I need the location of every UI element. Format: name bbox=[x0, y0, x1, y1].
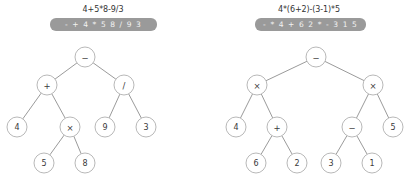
tree-edge bbox=[261, 136, 272, 155]
tree-node-label: 6 bbox=[253, 159, 258, 168]
tree-edge bbox=[357, 136, 367, 155]
tree-edge bbox=[377, 94, 388, 118]
tree-node-operand: 1 bbox=[362, 153, 382, 173]
tree-node-operand: 5 bbox=[34, 153, 54, 173]
tree-node-operand: 3 bbox=[321, 153, 341, 173]
tree-node-label: 5 bbox=[390, 123, 395, 132]
tree-node-label: × bbox=[253, 81, 260, 91]
tree-node-operator: − bbox=[75, 47, 95, 67]
tree-edge bbox=[52, 94, 65, 118]
tree-node-operand: 5 bbox=[383, 117, 403, 137]
tree-node-operator: × bbox=[247, 75, 267, 95]
tree-node-label: × bbox=[66, 123, 73, 133]
tree-node-label: 2 bbox=[294, 159, 299, 168]
tree-edge bbox=[74, 136, 81, 154]
tree-edge bbox=[336, 136, 347, 155]
tree-edge bbox=[129, 94, 142, 118]
tree-edge bbox=[50, 135, 64, 155]
tree-node-operator: × bbox=[363, 75, 383, 95]
tree-edge bbox=[282, 136, 292, 155]
tree-node-operator: + bbox=[37, 75, 57, 95]
tree-node-operator: × bbox=[60, 117, 80, 137]
tree-node-label: − bbox=[348, 123, 355, 133]
tree-node-label: 4 bbox=[233, 123, 238, 132]
tree-node-operand: 8 bbox=[75, 153, 95, 173]
expression-trees-figure: 4+5*8-9/3 - + 4 * 5 8 / 9 3 −+/4×9358 4*… bbox=[0, 0, 412, 185]
tree-edge bbox=[109, 94, 120, 118]
tree-node-operand: 3 bbox=[136, 117, 156, 137]
tree-edge bbox=[356, 94, 368, 118]
tree-node-operand: 9 bbox=[95, 117, 115, 137]
tree-node-operator: + bbox=[267, 117, 287, 137]
tree-node-label: + bbox=[273, 123, 280, 133]
tree-node-label: 4 bbox=[14, 123, 19, 132]
tree-edge bbox=[266, 61, 307, 80]
tree-node-label: 1 bbox=[369, 159, 374, 168]
expression-panel-right: 4*(6+2)-(3-1)*5 - * 4 + 6 2 * - 3 1 5 −×… bbox=[206, 0, 412, 185]
tree-node-label: 8 bbox=[82, 159, 87, 168]
tree-node-label: − bbox=[81, 53, 88, 63]
tree-node-operand: 6 bbox=[246, 153, 266, 173]
expression-panel-left: 4+5*8-9/3 - + 4 * 5 8 / 9 3 −+/4×9358 bbox=[0, 0, 206, 185]
tree-node-operator: / bbox=[114, 75, 134, 95]
tree-edge bbox=[325, 61, 364, 80]
tree-edge bbox=[23, 93, 41, 119]
tree-node-label: 9 bbox=[102, 123, 107, 132]
tree-edges-right bbox=[240, 61, 388, 154]
expression-tree-right: −××4+−56231 bbox=[206, 0, 412, 185]
tree-node-label: × bbox=[369, 81, 376, 91]
tree-node-operator: − bbox=[306, 47, 326, 67]
tree-node-label: 5 bbox=[41, 159, 46, 168]
tree-node-label: 3 bbox=[328, 159, 333, 168]
tree-edge bbox=[93, 63, 116, 79]
tree-node-label: / bbox=[123, 81, 126, 91]
tree-node-operand: 4 bbox=[226, 117, 246, 137]
tree-node-label: + bbox=[43, 81, 50, 91]
tree-node-operand: 2 bbox=[287, 153, 307, 173]
tree-node-label: − bbox=[312, 53, 319, 63]
expression-tree-left: −+/4×9358 bbox=[0, 0, 206, 185]
tree-edge bbox=[261, 94, 272, 118]
tree-node-label: 3 bbox=[143, 123, 148, 132]
tree-node-operator: − bbox=[342, 117, 362, 137]
tree-nodes-right: −××4+−56231 bbox=[226, 47, 403, 173]
tree-edge bbox=[55, 63, 77, 79]
tree-edge bbox=[240, 94, 252, 118]
tree-node-operand: 4 bbox=[7, 117, 27, 137]
